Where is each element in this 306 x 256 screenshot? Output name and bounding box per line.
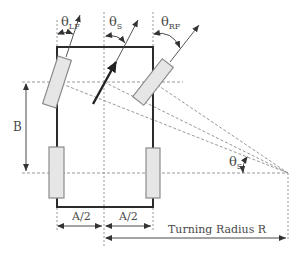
icr-lines: [57, 82, 288, 173]
theta-rf-label: θRF: [161, 14, 181, 31]
theta-s-icr-arc: [243, 157, 247, 173]
rear-left-wheel: [49, 147, 64, 198]
center-radius-line: [104, 82, 288, 173]
rear-right-wheel: [146, 148, 160, 198]
theta-lf-label: θLF: [61, 14, 80, 31]
theta-s-icr-label: θS: [229, 154, 242, 171]
theta-s-arc: [106, 36, 125, 43]
theta-rf-arc: [154, 33, 180, 48]
left-wheel-radius-line: [57, 82, 288, 173]
wheelbase-label: B: [13, 120, 22, 134]
theta-lf-arc: [58, 33, 73, 35]
half-track-right-label: A/2: [118, 210, 138, 223]
turning-radius-label: Turning Radius R: [168, 223, 267, 236]
right-wheel-radius-line: [153, 82, 288, 173]
half-track-left-label: A/2: [71, 210, 91, 223]
theta-s-label: θS: [109, 14, 122, 31]
steering-direction-arrow: [93, 62, 116, 104]
chassis-frame: [57, 47, 153, 207]
steering-geometry-diagram: θLF θS θRF θS B A/2 A/2 Turning Radius R: [0, 0, 306, 256]
